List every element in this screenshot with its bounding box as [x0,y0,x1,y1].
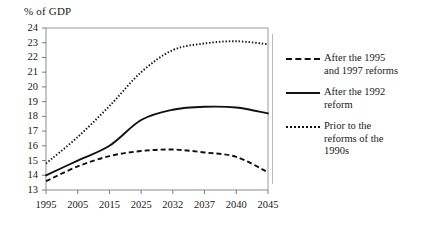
y-tick-label: 17 [16,126,38,137]
y-tick-label: 13 [16,185,38,196]
x-tick-label: 1995 [29,200,63,211]
legend-label-prior-to-reforms: Prior to thereforms of the1990s [324,120,424,158]
chart-legend: After the 1995and 1997 reforms After the… [286,52,424,167]
y-tick-label: 16 [16,141,38,152]
y-tick-label: 21 [16,67,38,78]
x-tick-label: 2025 [124,200,158,211]
legend-item-after-1995-1997-reforms[interactable]: After the 1995and 1997 reforms [286,52,424,77]
x-tick-label: 2005 [61,200,95,211]
x-tick-label: 2045 [251,200,285,211]
data-series-group [46,41,268,181]
y-tick-label: 23 [16,38,38,49]
x-tick-label: 2032 [156,200,190,211]
legend-label-after-1992-reform: After the 1992reform [324,86,424,111]
x-tick-label: 2015 [92,200,126,211]
y-tick-label: 20 [16,82,38,93]
x-axis-ticks [46,190,268,194]
series-line-0 [46,149,268,181]
y-tick-label: 19 [16,97,38,108]
y-tick-label: 18 [16,111,38,122]
legend-divider [272,34,273,184]
x-tick-label: 2040 [219,200,253,211]
legend-swatch-dotted [286,126,320,131]
y-axis-ticks [42,28,46,190]
x-tick-label: 2037 [188,200,222,211]
legend-label-after-1995-1997-reforms: After the 1995and 1997 reforms [324,52,424,77]
chart-root: % of GDP 131415161718192021222324 199520… [0,0,428,227]
legend-swatch-solid [286,92,320,97]
legend-item-after-1992-reform[interactable]: After the 1992reform [286,86,424,111]
y-tick-label: 14 [16,170,38,181]
y-tick-label: 22 [16,52,38,63]
legend-item-prior-to-reforms[interactable]: Prior to thereforms of the1990s [286,120,424,158]
series-line-2 [46,41,268,163]
y-tick-label: 15 [16,156,38,167]
y-tick-label: 24 [16,23,38,34]
legend-swatch-dashed [286,58,320,63]
